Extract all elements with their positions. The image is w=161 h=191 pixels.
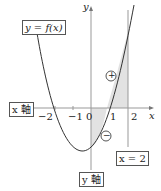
y-axis-arrow — [89, 6, 93, 11]
tick-label: −2 — [38, 112, 53, 122]
tick-label: 0 — [86, 112, 92, 122]
x-equals-2-label: x = 2 — [116, 151, 149, 166]
plus-sign: + — [108, 71, 116, 80]
minus-sign: − — [103, 131, 111, 140]
x-axis-letter: x — [149, 111, 155, 121]
tick-label: 2 — [131, 112, 137, 122]
tick-label: −1 — [68, 112, 83, 122]
y-axis-label: y 軸 — [79, 172, 104, 187]
tick-label: 1 — [110, 112, 116, 122]
y-axis-letter: y — [83, 2, 89, 12]
x-axis-label: x 軸 — [9, 102, 34, 117]
function-label: y = f(x) — [22, 20, 66, 35]
shaded-negative-region — [91, 108, 107, 148]
